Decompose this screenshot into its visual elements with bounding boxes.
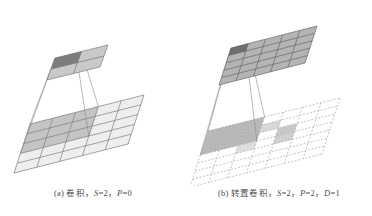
output-grid-b-surface [219,26,317,85]
caption-prefix: (a) 卷积， [54,188,94,198]
panel-transposed-convolution: (b) 转置卷积，S=2，P=2，D=1 [186,0,372,216]
panel-a-caption: (a) 卷积，S=2，P=0 [0,186,186,198]
caption-prefix: (b) 转置卷积， [218,188,277,198]
input-grid-a [14,95,144,173]
panel-b-caption: (b) 转置卷积，S=2，P=2，D=1 [186,186,372,198]
output-grid-b [219,26,317,85]
caption-value-P: =0 [123,188,132,198]
caption-value-D: =1 [330,188,339,198]
caption-value-S: =2 [98,188,107,198]
caption-value-S: =2 [281,188,290,198]
panel-convolution: (a) 卷积，S=2，P=0 [0,0,186,216]
output-grid-a [47,45,108,80]
caption-sep-0: ， [108,188,117,198]
caption-sep-0: ， [291,188,300,198]
panel-b-diagram [186,0,372,186]
caption-sep-1: ， [315,188,324,198]
figure-container: (a) 卷积，S=2，P=0 (b) 转置卷积，S=2，P=2，D=1 [0,0,372,216]
panel-a-diagram [0,0,186,186]
caption-value-P: =2 [305,188,314,198]
